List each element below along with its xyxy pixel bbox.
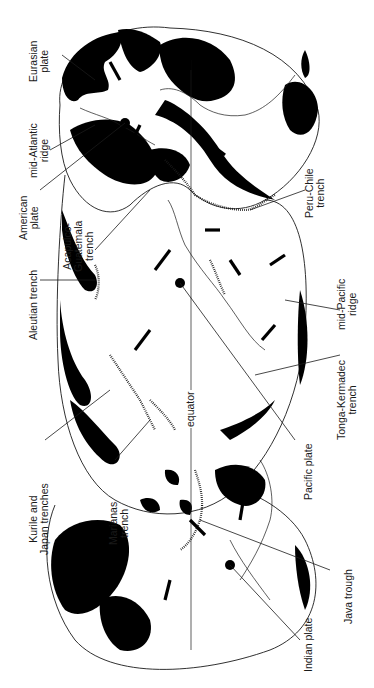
- label-kurile-japan-trenches: Kurile and Japan trenches: [28, 483, 50, 555]
- label-text: trench: [84, 221, 95, 272]
- marianas-trench-marks: [150, 400, 175, 430]
- land-masses: [51, 29, 318, 651]
- kurile-japan-trench-marks: [110, 355, 155, 430]
- label-text: Aleutian trench: [28, 270, 39, 340]
- label-aleutian-trench: Aleutian trench: [28, 270, 39, 340]
- label-text: ridge: [39, 123, 50, 178]
- label-american-plate: American plate: [18, 196, 40, 240]
- label-marianas-trench: Marianas trench: [108, 502, 130, 545]
- label-text: Java trough: [343, 569, 354, 624]
- label-text: ridge: [347, 279, 358, 330]
- label-tonga-kermadec-trench: Tonga-Kermadec trench: [336, 360, 358, 440]
- label-text: plate: [39, 41, 50, 82]
- label-text: trench: [347, 360, 358, 440]
- label-text: Pacific plate: [303, 443, 314, 500]
- world-map: [0, 0, 374, 688]
- label-text: Indian plate: [303, 618, 314, 672]
- label-mid-pacific-ridge: mid-Pacific ridge: [336, 279, 358, 330]
- label-pacific-plate: Pacific plate: [303, 443, 314, 500]
- label-java-trough: Java trough: [343, 569, 354, 624]
- label-text: equator: [185, 391, 196, 427]
- label-text: plate: [29, 196, 40, 240]
- label-eurasian-plate: Eurasian plate: [28, 41, 50, 82]
- label-mid-atlantic-ridge: mid-Atlantic ridge: [28, 123, 50, 178]
- label-equator: equator: [185, 390, 196, 428]
- label-indian-plate: Indian plate: [303, 618, 314, 672]
- label-text: trench: [119, 502, 130, 545]
- label-acapulco-guatemala-trench: Acapulco- Guatemala trench: [62, 221, 95, 272]
- label-text: trench: [315, 168, 326, 218]
- label-text: Japan trenches: [39, 483, 50, 555]
- label-peru-chile-trench: Peru-Chile trench: [304, 168, 326, 218]
